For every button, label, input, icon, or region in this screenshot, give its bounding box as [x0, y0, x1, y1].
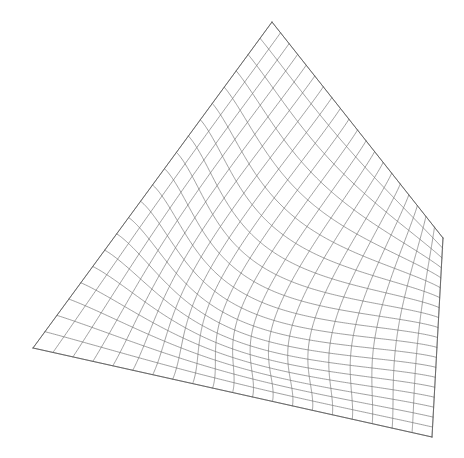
plot-background	[0, 0, 464, 458]
figure-canvas	[0, 0, 464, 458]
hyperbolic-paraboloid-surface	[0, 0, 464, 458]
